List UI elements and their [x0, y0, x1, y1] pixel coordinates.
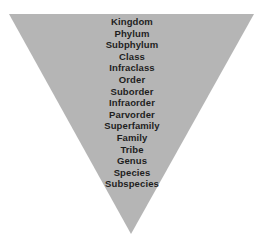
rank-kingdom: Kingdom [0, 16, 264, 28]
rank-species: Species [0, 167, 264, 179]
taxonomic-rank-list: Kingdom Phylum Subphylum Class Infraclas… [0, 16, 264, 190]
rank-infraorder: Infraorder [0, 97, 264, 109]
rank-order: Order [0, 74, 264, 86]
rank-parvorder: Parvorder [0, 109, 264, 121]
rank-suborder: Suborder [0, 86, 264, 98]
rank-phylum: Phylum [0, 28, 264, 40]
rank-class: Class [0, 51, 264, 63]
rank-superfamily: Superfamily [0, 120, 264, 132]
rank-genus: Genus [0, 155, 264, 167]
rank-infraclass: Infraclass [0, 62, 264, 74]
rank-tribe: Tribe [0, 144, 264, 156]
rank-family: Family [0, 132, 264, 144]
rank-subphylum: Subphylum [0, 39, 264, 51]
rank-subspecies: Subspecies [0, 178, 264, 190]
